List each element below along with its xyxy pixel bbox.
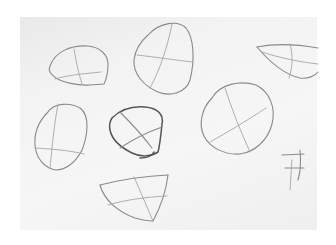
sketch-tall-oval-left	[35, 104, 87, 170]
sketch-rounded-box-top-left	[49, 46, 108, 85]
sketch-large-oval-right	[201, 83, 273, 154]
sketch-shield-bottom-center	[100, 175, 168, 221]
sketch-small-mark-bottom-right	[282, 150, 304, 190]
sketch-almond-top-right	[257, 44, 318, 78]
pencil-sketches	[0, 0, 336, 245]
sketch-dark-rounded-shape-center	[110, 107, 163, 158]
sketch-tilted-oval-top-center	[134, 23, 193, 94]
